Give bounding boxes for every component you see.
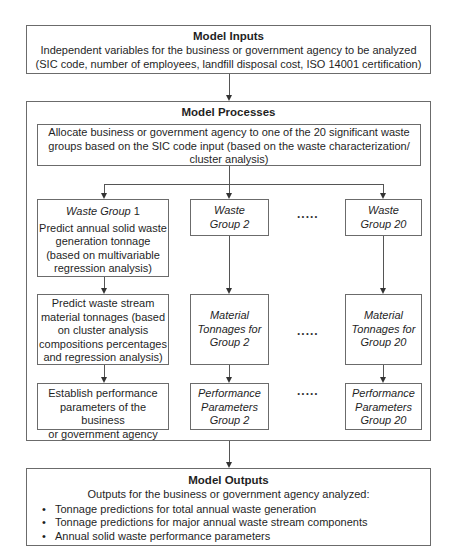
connector-branch-g1 [104, 184, 105, 193]
allocate-line2: groups based on the SIC code input (base… [38, 140, 420, 154]
connector-branch-g2 [229, 184, 230, 193]
allocate-box: Allocate business or government agency t… [37, 124, 421, 166]
connector-processes-outputs [229, 441, 230, 462]
model-outputs-list: Tonnage predictions for total annual was… [37, 503, 430, 544]
group2-header-box: Waste Group 2 [190, 199, 269, 236]
connector-branch-horizontal [104, 184, 384, 185]
model-outputs-intro: Outputs for the business or government a… [27, 488, 430, 502]
connector-inputs-processes [229, 74, 230, 95]
group1-establish-box: Establish performance parameters of the … [37, 383, 169, 430]
ellipsis-row3: ..... [297, 384, 319, 398]
ellipsis-row2: ..... [297, 324, 319, 338]
group20-header-box: Waste Group 20 [345, 199, 422, 236]
allocate-line3: cluster analysis) [38, 153, 420, 167]
model-inputs-box: Model Inputs Independent variables for t… [26, 25, 431, 74]
ellipsis-row1: ..... [297, 207, 319, 221]
connector-g1-r1-r2 [104, 277, 105, 288]
group20-performance-box: Performance Parameters Group 20 [345, 383, 422, 430]
connector-g2-r1-r2 [229, 236, 230, 288]
group1-predict-tonnage-box: Waste Group 1 Predict annual solid waste… [37, 199, 169, 277]
connector-branch-g20 [383, 184, 384, 193]
allocate-line1: Allocate business or government agency t… [38, 126, 420, 140]
model-inputs-title: Model Inputs [27, 30, 430, 42]
model-outputs-box: Model Outputs Outputs for the business o… [26, 468, 431, 546]
group2-performance-box: Performance Parameters Group 2 [190, 383, 269, 430]
group20-material-box: Material Tonnages for Group 20 [345, 294, 422, 365]
output-item: Tonnage predictions for total annual was… [55, 503, 430, 517]
connector-g2-r2-r3 [229, 365, 230, 377]
group1-header: Waste Group 1 [38, 205, 168, 219]
connector-g20-r1-r2 [383, 236, 384, 288]
model-inputs-line2: (SIC code, number of employees, landfill… [27, 58, 430, 72]
connector-allocate-down [229, 166, 230, 184]
model-processes-title: Model Processes [26, 106, 431, 118]
model-inputs-line1: Independent variables for the business o… [27, 44, 430, 58]
group2-material-box: Material Tonnages for Group 2 [190, 294, 269, 365]
output-item: Annual solid waste performance parameter… [55, 530, 430, 544]
model-outputs-title: Model Outputs [27, 474, 430, 486]
connector-g1-r2-r3 [104, 365, 105, 377]
output-item: Tonnage predictions for major annual was… [55, 516, 430, 530]
connector-g20-r2-r3 [383, 365, 384, 377]
group1-predict-material-box: Predict waste stream material tonnages (… [37, 294, 169, 365]
